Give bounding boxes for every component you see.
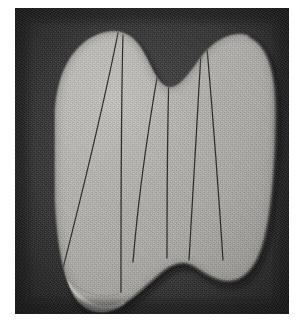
photograph-plate — [15, 8, 289, 314]
figure-page — [0, 0, 304, 332]
specimen-illustration — [15, 8, 289, 314]
